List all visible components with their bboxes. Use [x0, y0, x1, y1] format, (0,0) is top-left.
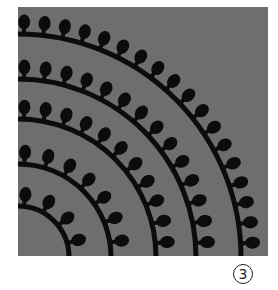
figure-number-label: 3 — [233, 264, 253, 284]
pattern-image — [18, 7, 268, 256]
arc-pattern — [18, 7, 268, 256]
